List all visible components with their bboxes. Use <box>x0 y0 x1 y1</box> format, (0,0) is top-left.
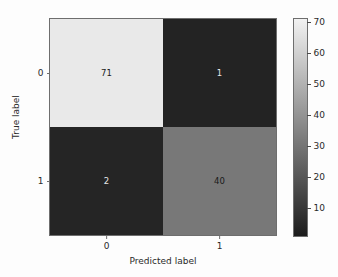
colorbar-tick-label: 10 <box>311 203 325 213</box>
matplotlib-figure: 71 1 2 40 0 1 0 1 <box>0 0 338 277</box>
heatmap-cell-0-0: 71 <box>50 19 163 127</box>
y-tick-1: 1 <box>38 176 50 186</box>
x-tick-label: 0 <box>104 239 110 251</box>
heatmap-cell-1-1: 40 <box>163 127 276 235</box>
colorbar-tick-20: 20 <box>307 172 325 182</box>
cell-value: 2 <box>104 177 110 186</box>
tick-mark-icon <box>47 73 51 74</box>
heatmap-cell-0-1: 1 <box>163 19 276 127</box>
colorbar-tick-label: 70 <box>311 17 325 27</box>
colorbar-tick-label: 20 <box>311 172 325 182</box>
tick-mark-icon <box>47 181 51 182</box>
x-axis-label: Predicted label <box>49 256 277 266</box>
x-tick-1: 1 <box>217 235 223 251</box>
colorbar-tick-label: 50 <box>311 79 325 89</box>
colorbar-tick-60: 60 <box>307 48 325 58</box>
colorbar-tick-label: 30 <box>311 141 325 151</box>
x-tick-label: 1 <box>217 239 223 251</box>
y-axis-label: True label <box>11 72 21 162</box>
colorbar-tick-50: 50 <box>307 79 325 89</box>
heatmap-cell-1-0: 2 <box>50 127 163 235</box>
colorbar-tick-label: 60 <box>311 48 325 58</box>
colorbar-gradient <box>294 19 307 236</box>
heatmap-grid: 71 1 2 40 <box>50 19 276 235</box>
colorbar-tick-10: 10 <box>307 203 325 213</box>
y-tick-label: 1 <box>38 176 47 186</box>
y-tick-0: 0 <box>38 68 50 78</box>
colorbar: 70605040302010 <box>293 18 308 237</box>
colorbar-tick-30: 30 <box>307 141 325 151</box>
cell-value: 1 <box>217 69 223 78</box>
cell-value: 71 <box>101 69 112 78</box>
colorbar-tick-70: 70 <box>307 17 325 27</box>
colorbar-tick-label: 40 <box>311 110 325 120</box>
confusion-matrix-axes: 71 1 2 40 0 1 0 1 <box>49 18 277 236</box>
colorbar-tick-40: 40 <box>307 110 325 120</box>
x-tick-0: 0 <box>104 235 110 251</box>
y-tick-label: 0 <box>38 68 47 78</box>
cell-value: 40 <box>214 177 225 186</box>
